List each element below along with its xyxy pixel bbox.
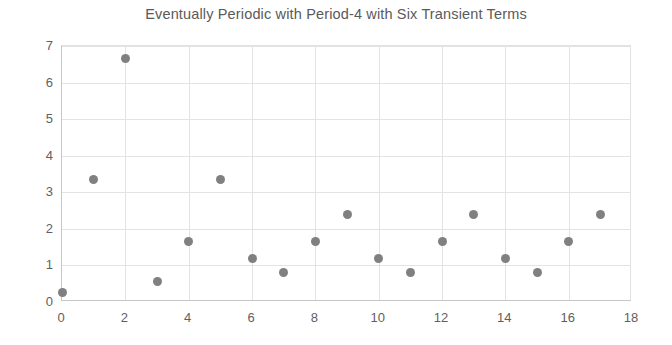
scatter-chart-figure: Eventually Periodic with Period-4 with S… [0,0,672,345]
y-axis-tick-label: 4 [13,148,53,161]
x-axis-tick-label: 4 [168,311,208,324]
x-axis-tick-label: 16 [548,311,588,324]
gridline-horizontal [62,192,630,193]
data-point [406,268,415,277]
gridline-vertical [125,46,126,300]
y-axis-tick-label: 5 [13,112,53,125]
gridline-horizontal [62,229,630,230]
data-point [438,237,447,246]
gridline-horizontal [62,46,630,47]
x-axis-tick-label: 12 [421,311,461,324]
data-point [596,210,605,219]
x-axis-tick-label: 14 [484,311,524,324]
gridline-vertical [569,46,570,300]
data-point [279,268,288,277]
x-axis-tick-label: 0 [41,311,81,324]
gridline-vertical [442,46,443,300]
y-axis-tick-label: 6 [13,75,53,88]
x-axis-tick-labels: 024681012141618 [61,311,631,331]
plot-area [61,45,631,301]
data-point [184,237,193,246]
data-point [564,237,573,246]
x-axis-tick-label: 2 [104,311,144,324]
data-point [248,254,257,263]
data-point [311,237,320,246]
gridline-vertical [315,46,316,300]
data-point [343,210,352,219]
y-axis-tick-label: 1 [13,258,53,271]
x-axis-tick-label: 18 [611,311,651,324]
data-point [121,54,130,63]
y-axis-tick-label: 2 [13,221,53,234]
data-point [153,277,162,286]
y-axis-tick-label: 7 [13,39,53,52]
x-axis-tick-label: 6 [231,311,271,324]
data-point [469,210,478,219]
data-point [58,288,67,297]
x-axis-tick-label: 10 [358,311,398,324]
y-axis-tick-label: 3 [13,185,53,198]
chart-title: Eventually Periodic with Period-4 with S… [0,6,672,22]
y-axis-tick-label: 0 [13,295,53,308]
gridline-horizontal [62,265,630,266]
gridline-horizontal [62,156,630,157]
data-point [374,254,383,263]
data-point [216,175,225,184]
y-axis-tick-labels: 01234567 [8,45,53,301]
gridline-vertical [189,46,190,300]
x-axis-tick-label: 8 [294,311,334,324]
data-point [501,254,510,263]
gridline-horizontal [62,119,630,120]
data-point [533,268,542,277]
data-point [89,175,98,184]
gridline-horizontal [62,83,630,84]
